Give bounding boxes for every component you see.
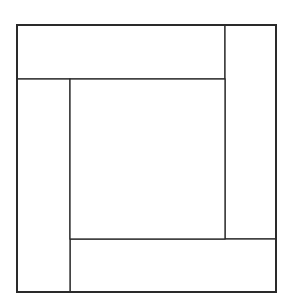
left-column — [17, 79, 70, 292]
bottom-band — [70, 239, 276, 292]
pinwheel-square-diagram — [0, 0, 293, 308]
right-column — [225, 25, 276, 239]
center-square — [70, 79, 225, 239]
top-band — [17, 25, 225, 79]
